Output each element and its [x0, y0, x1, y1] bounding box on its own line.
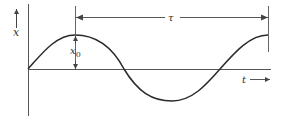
period-label: τ — [168, 12, 174, 23]
x-axis-label: t — [242, 74, 247, 85]
amplitude-label: x0 — [70, 45, 81, 59]
y-axis-label: x — [13, 26, 20, 39]
sine-wave-diagram: x x0 τ t — [0, 0, 284, 120]
sine-curve — [28, 35, 268, 101]
